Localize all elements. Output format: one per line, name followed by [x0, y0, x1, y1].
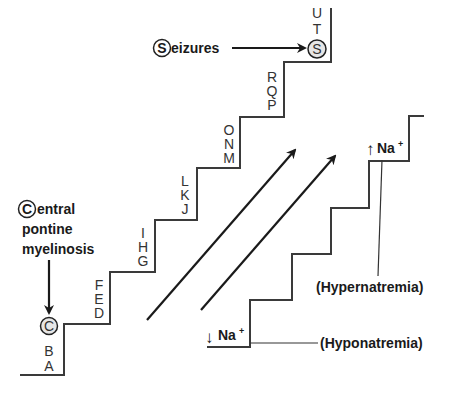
- letter-m: M: [223, 150, 235, 166]
- down-arrow-icon: ↓: [205, 328, 214, 347]
- letter-s: S: [312, 41, 321, 57]
- staircase-letters: A B C D E F G H I J K L M N O P Q R S T …: [41, 5, 327, 374]
- letter-f: F: [95, 277, 104, 293]
- high-na-text: Na: [377, 140, 395, 156]
- letter-e: E: [94, 291, 103, 307]
- letter-d: D: [94, 305, 104, 321]
- letter-b: B: [44, 343, 53, 359]
- diagonal-arrow-1: [147, 150, 295, 320]
- letter-r: R: [267, 69, 277, 85]
- cpm-line2: pontine: [22, 221, 73, 237]
- letter-p: P: [267, 97, 276, 113]
- cpm-label: C entral pontine myelinosis: [19, 201, 95, 258]
- letter-q: Q: [267, 83, 278, 99]
- cpm-line1: entral: [37, 201, 75, 217]
- letter-o: O: [224, 122, 235, 138]
- hypernatremia-leader-line: [378, 160, 382, 276]
- seizures-text: eizures: [171, 40, 219, 56]
- letter-a: A: [44, 358, 54, 374]
- letter-g: G: [138, 253, 149, 269]
- cpm-line3: myelinosis: [22, 241, 95, 257]
- letter-l: L: [181, 173, 189, 189]
- letter-u: U: [312, 5, 322, 21]
- high-na-sup: +: [398, 139, 403, 149]
- seizures-initial: S: [157, 40, 166, 56]
- letter-i: I: [141, 225, 145, 241]
- left-staircase: [20, 8, 331, 375]
- letter-c: C: [44, 318, 54, 334]
- cpm-initial: C: [22, 201, 32, 217]
- high-sodium-label: ↑ Na +: [366, 139, 403, 159]
- letter-t: T: [313, 21, 322, 37]
- low-sodium-label: ↓ Na +: [205, 326, 244, 347]
- low-na-sup: +: [239, 326, 244, 336]
- letter-h: H: [138, 239, 148, 255]
- letter-j: J: [182, 201, 189, 217]
- diagonal-arrow-2: [201, 156, 335, 310]
- hypernatremia-label: (Hypernatremia): [316, 279, 423, 295]
- seizures-label: S eizures: [154, 40, 220, 57]
- staircase-diagram: A B C D E F G H I J K L M N O P Q R S T …: [0, 0, 449, 393]
- letter-k: K: [180, 187, 190, 203]
- hyponatremia-label: (Hyponatremia): [320, 335, 423, 351]
- letter-n: N: [224, 136, 234, 152]
- up-arrow-icon: ↑: [366, 140, 375, 159]
- low-na-text: Na: [218, 327, 236, 343]
